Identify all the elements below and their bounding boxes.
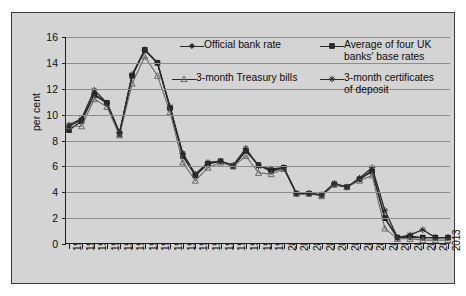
y-tick-label: 12 (32, 83, 58, 95)
x-tick-mark (195, 244, 196, 249)
y-tick-mark (62, 244, 66, 245)
x-tick-mark (208, 244, 209, 249)
x-tick-mark (132, 244, 133, 249)
legend-label: Average of four UK banks' base rates (344, 39, 431, 62)
x-tick-mark (157, 244, 158, 249)
x-tick-mark (423, 244, 424, 249)
x-tick-mark (246, 244, 247, 249)
gridline (66, 166, 450, 167)
gridline (66, 37, 450, 38)
x-tick-mark (107, 244, 108, 249)
gridline (66, 192, 450, 193)
x-tick-mark (94, 244, 95, 249)
legend-marker-diamond-icon (180, 40, 204, 52)
legend-marker-square-icon (320, 40, 344, 52)
gridline (66, 115, 450, 116)
legend-entry: 3-month certificates of deposit (320, 72, 454, 95)
chart-legend: Official bank rateAverage of four UK ban… (172, 39, 454, 101)
legend-label: 3-month Treasury bills (196, 72, 297, 84)
y-tick-label: 4 (32, 186, 58, 198)
y-tick-mark (62, 192, 66, 193)
x-tick-mark (233, 244, 234, 249)
x-tick-mark (69, 244, 70, 249)
legend-entry: Official bank rate (180, 39, 310, 52)
y-tick-mark (62, 89, 66, 90)
x-tick-mark (385, 244, 386, 249)
gridline (66, 141, 450, 142)
x-tick-mark (309, 244, 310, 249)
x-tick-mark (397, 244, 398, 249)
y-tick-label: 6 (32, 160, 58, 172)
gridline (66, 218, 450, 219)
data-point-star (180, 150, 186, 156)
x-tick-mark (372, 244, 373, 249)
data-point-diamond (189, 43, 194, 48)
x-tick-mark (360, 244, 361, 249)
data-point-star (243, 145, 249, 151)
data-point-star (420, 227, 426, 233)
x-tick-mark (120, 244, 121, 249)
x-tick-mark (284, 244, 285, 249)
legend-label: Official bank rate (204, 39, 281, 51)
x-tick-mark (448, 244, 449, 249)
x-tick-mark (271, 244, 272, 249)
x-tick-mark (259, 244, 260, 249)
y-tick-mark (62, 115, 66, 116)
data-point-star (331, 180, 337, 186)
data-point-star (205, 159, 211, 165)
y-tick-label: 14 (32, 57, 58, 69)
data-point-star (382, 207, 388, 213)
y-tick-label: 16 (32, 31, 58, 43)
data-point-star (407, 232, 413, 238)
x-tick-mark (183, 244, 184, 249)
y-tick-mark (62, 37, 66, 38)
x-tick-mark (296, 244, 297, 249)
x-tick-mark (347, 244, 348, 249)
y-tick-mark (62, 63, 66, 64)
y-tick-label: 2 (32, 212, 58, 224)
y-tick-mark (62, 218, 66, 219)
x-tick-mark (334, 244, 335, 249)
x-tick-mark (221, 244, 222, 249)
data-point-square (330, 44, 335, 49)
x-tick-mark (82, 244, 83, 249)
x-tick-mark (145, 244, 146, 249)
legend-marker-triangle-icon (172, 73, 196, 85)
y-tick-label: 0 (32, 238, 58, 250)
data-point-star (329, 76, 335, 82)
legend-marker-star-icon (320, 73, 344, 85)
x-tick-mark (435, 244, 436, 249)
legend-label: 3-month certificates of deposit (344, 72, 434, 95)
chart-panel: per cent 0246810121416 19831984198519861… (11, 12, 455, 284)
x-tick-label: 2013 (451, 230, 462, 251)
data-point-star (394, 234, 400, 240)
legend-entry: 3-month Treasury bills (172, 72, 312, 85)
x-tick-mark (170, 244, 171, 249)
y-tick-mark (62, 141, 66, 142)
chart-screenshot: per cent 0246810121416 19831984198519861… (0, 0, 466, 296)
legend-entry: Average of four UK banks' base rates (320, 39, 454, 62)
data-point-triangle (181, 76, 187, 82)
x-tick-mark (410, 244, 411, 249)
x-tick-mark (322, 244, 323, 249)
y-tick-label: 10 (32, 109, 58, 121)
y-tick-label: 8 (32, 135, 58, 147)
y-tick-mark (62, 166, 66, 167)
